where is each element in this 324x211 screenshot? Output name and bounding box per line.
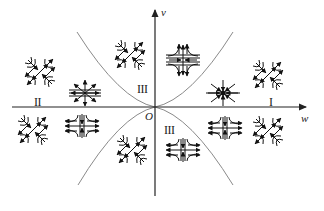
source-star-glyph-icon — [69, 80, 101, 106]
saddle-glyph-icon — [25, 57, 55, 87]
saddle-glyph-icon — [18, 115, 48, 145]
saddle-glyph-icon — [253, 116, 283, 146]
region-label-III-lower: III — [164, 124, 175, 136]
phase-diagram — [0, 0, 324, 211]
saddle-glyph-icon — [117, 135, 147, 165]
cross-saddle-glyph-icon — [65, 114, 99, 138]
saddle-glyph-icon — [253, 60, 283, 90]
region-label-I: I — [269, 96, 273, 108]
cross-saddle-glyph-icon — [166, 138, 200, 162]
origin-label: O — [145, 111, 153, 122]
parabola-lower-left — [78, 107, 155, 185]
v-axis-label: v — [161, 7, 166, 18]
region-label-III-upper: III — [137, 83, 148, 95]
parabola-upper-right — [155, 32, 233, 107]
w-axis-label: w — [301, 113, 308, 124]
sink-star-glyph-icon — [206, 80, 240, 106]
cross-saddle-glyph-icon — [166, 44, 200, 76]
cross-saddle-glyph-icon — [208, 116, 242, 140]
region-label-II: II — [34, 96, 41, 108]
saddle-glyph-icon — [115, 40, 145, 70]
